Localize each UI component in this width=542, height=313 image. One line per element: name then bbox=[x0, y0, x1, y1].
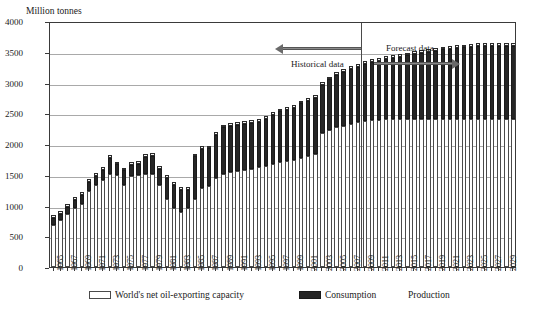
bar-segment-production bbox=[476, 43, 480, 46]
bar-segment-export-capacity bbox=[278, 162, 282, 267]
bar-segment-production bbox=[497, 43, 501, 46]
bar-column bbox=[228, 123, 232, 267]
x-axis-tick-mark bbox=[109, 268, 110, 271]
bar-segment-production bbox=[455, 45, 459, 48]
legend-item: Consumption bbox=[299, 290, 376, 300]
bar-segment-export-capacity bbox=[511, 119, 515, 267]
bar-segment-production bbox=[334, 72, 338, 75]
x-axis-tick-mark bbox=[229, 268, 230, 271]
bar-column bbox=[334, 72, 338, 267]
x-axis-tick-mark bbox=[449, 268, 450, 271]
x-axis-tick-mark bbox=[350, 268, 351, 271]
x-axis-tick-mark bbox=[81, 268, 82, 271]
bar-segment-consumption bbox=[483, 46, 487, 120]
bar-segment-production bbox=[356, 64, 360, 67]
bar-segment-production bbox=[94, 173, 98, 176]
bar-segment-production bbox=[242, 121, 246, 124]
bar-segment-export-capacity bbox=[313, 154, 317, 267]
bar-segment-consumption bbox=[242, 124, 246, 171]
bar-column bbox=[101, 167, 105, 267]
x-axis-tick-mark bbox=[392, 268, 393, 271]
bar-segment-consumption bbox=[504, 46, 508, 120]
bar-segment-production bbox=[108, 155, 112, 158]
bar-segment-consumption bbox=[115, 164, 119, 174]
bar-segment-consumption bbox=[51, 218, 55, 225]
bar-segment-consumption bbox=[341, 72, 345, 126]
x-axis-tick-mark bbox=[442, 268, 443, 271]
bar-column bbox=[476, 43, 480, 267]
legend-label: World's net oil-exporting capacity bbox=[115, 290, 244, 300]
bar-segment-production bbox=[122, 168, 126, 171]
bar-column bbox=[221, 125, 225, 267]
bar-segment-production bbox=[504, 43, 508, 46]
bar-segment-export-capacity bbox=[455, 119, 459, 267]
bar-segment-production bbox=[483, 43, 487, 46]
bar-segment-production bbox=[115, 162, 119, 165]
bar-segment-production bbox=[80, 192, 84, 195]
bar-segment-export-capacity bbox=[341, 126, 345, 267]
plot-area bbox=[49, 22, 516, 268]
bar-column bbox=[455, 45, 459, 267]
bar-segment-export-capacity bbox=[292, 160, 296, 267]
bar-segment-production bbox=[384, 56, 388, 59]
bar-segment-consumption bbox=[349, 69, 353, 124]
bar-segment-consumption bbox=[200, 149, 204, 188]
y-axis-title: Million tonnes bbox=[26, 6, 82, 16]
x-axis-tick-mark bbox=[477, 268, 478, 271]
x-axis-tick-mark bbox=[336, 268, 337, 271]
bar-segment-production bbox=[179, 187, 183, 190]
bar-column bbox=[207, 146, 211, 267]
y-axis-tick-label: 2000 bbox=[0, 140, 23, 150]
bar-segment-production bbox=[349, 66, 353, 69]
bar-segment-export-capacity bbox=[490, 119, 494, 267]
y-axis-tick-label: 3500 bbox=[0, 48, 23, 58]
x-axis-tick-mark bbox=[166, 268, 167, 271]
x-axis-tick-mark bbox=[244, 268, 245, 271]
bar-segment-consumption bbox=[405, 55, 409, 119]
bar-segment-consumption bbox=[299, 103, 303, 157]
bar-segment-export-capacity bbox=[136, 175, 140, 267]
forecast-data-arrow-line bbox=[374, 62, 452, 65]
x-axis-tick-mark bbox=[343, 268, 344, 271]
bar-column bbox=[405, 53, 409, 267]
bar-column bbox=[490, 43, 494, 267]
bar-segment-consumption bbox=[313, 98, 317, 155]
bar-segment-consumption bbox=[129, 165, 133, 176]
bar-column bbox=[299, 101, 303, 267]
bar-column bbox=[426, 49, 430, 267]
bar-segment-consumption bbox=[221, 127, 225, 174]
bar-column bbox=[391, 55, 395, 267]
bar-column bbox=[87, 179, 91, 267]
bar-column bbox=[377, 58, 381, 267]
bar-segment-production bbox=[165, 175, 169, 178]
bar-column bbox=[235, 122, 239, 267]
bar-segment-production bbox=[228, 123, 232, 126]
x-axis-tick-mark bbox=[378, 268, 379, 271]
bar-segment-export-capacity bbox=[504, 119, 508, 267]
bar-segment-consumption bbox=[356, 67, 360, 122]
bar-segment-export-capacity bbox=[419, 119, 423, 267]
bar-segment-export-capacity bbox=[271, 164, 275, 267]
bar-segment-export-capacity bbox=[448, 119, 452, 267]
bar-segment-production bbox=[257, 119, 261, 122]
bar-column bbox=[150, 153, 154, 267]
legend: World's net oil-exporting capacityConsum… bbox=[49, 290, 516, 306]
x-axis-tick-mark bbox=[53, 268, 54, 271]
bar-segment-production bbox=[73, 197, 77, 200]
bar-segment-production bbox=[469, 44, 473, 47]
historical-data-arrow-head-left-icon bbox=[275, 44, 283, 54]
bar-segment-production bbox=[363, 61, 367, 64]
x-axis-tick-mark bbox=[364, 268, 365, 271]
bar-segment-consumption bbox=[257, 122, 261, 168]
bar-segment-export-capacity bbox=[462, 119, 466, 267]
bar-column bbox=[242, 121, 246, 267]
bar-column bbox=[292, 105, 296, 267]
bar-segment-consumption bbox=[94, 176, 98, 185]
bar-segment-production bbox=[65, 204, 69, 207]
chart-root: Million tonnes 0500100015002000250030003… bbox=[0, 0, 542, 313]
x-axis-tick-mark bbox=[201, 268, 202, 271]
x-axis-tick-mark bbox=[279, 268, 280, 271]
x-axis-tick-mark bbox=[173, 268, 174, 271]
x-axis-tick-mark bbox=[180, 268, 181, 271]
bar-segment-export-capacity bbox=[377, 120, 381, 267]
